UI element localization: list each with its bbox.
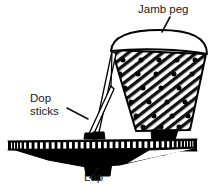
label-lap: Lap [84, 171, 103, 183]
dop-sticks-group [84, 51, 116, 139]
label-dop-line2: sticks [30, 105, 59, 117]
figure-jamb-peg-lap-diagram: Jamb peg Dop sticks Lap [0, 0, 212, 186]
label-jamb-peg: Jamb peg [138, 3, 189, 15]
dop-stick-lower [88, 86, 114, 138]
jamb-peg-group [105, 30, 212, 155]
jamb-peg-hatch-pattern [105, 44, 212, 139]
dop-stick-holder-right [92, 132, 105, 139]
label-dop-line1: Dop [30, 92, 51, 104]
diagram-canvas: Jamb peg Dop sticks Lap [0, 0, 212, 186]
jamb-peg-body [105, 44, 212, 139]
jamb-peg-top-cap [111, 30, 207, 54]
leader-dop-sticks [67, 108, 88, 119]
